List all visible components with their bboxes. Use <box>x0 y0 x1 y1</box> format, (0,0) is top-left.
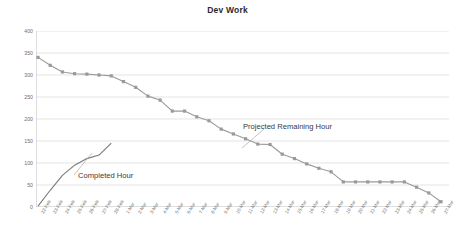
data-point-marker <box>110 74 113 77</box>
data-point-marker <box>171 109 174 112</box>
data-point-marker <box>195 115 198 118</box>
plot-area <box>36 31 449 207</box>
data-point-marker <box>61 70 64 73</box>
y-axis-tick-label: 400 <box>11 28 33 34</box>
data-point-marker <box>207 119 210 122</box>
data-point-marker <box>366 180 369 183</box>
data-point-marker <box>354 180 357 183</box>
data-point-marker <box>159 98 162 101</box>
data-point-marker <box>85 73 88 76</box>
y-axis-tick-label: 250 <box>11 94 33 100</box>
y-axis-tick-label: 300 <box>11 72 33 78</box>
data-point-marker <box>183 109 186 112</box>
data-point-marker <box>391 180 394 183</box>
gridlines <box>36 31 449 207</box>
chart-svg <box>36 31 449 207</box>
chart-container: Dev Work 050100150200250300350400 22-Feb… <box>0 0 455 241</box>
annotation-projected-remaining-hour: Projected Remaining Hour <box>243 122 332 131</box>
data-point-marker <box>73 72 76 75</box>
data-point-marker <box>256 142 259 145</box>
data-point-marker <box>146 95 149 98</box>
data-point-marker <box>134 86 137 89</box>
data-point-marker <box>415 186 418 189</box>
y-axis-tick-label: 350 <box>11 50 33 56</box>
y-axis-tick-label: 0 <box>11 204 33 210</box>
y-axis-tick-label: 200 <box>11 116 33 122</box>
series-line-0 <box>38 57 441 201</box>
data-point-marker <box>122 80 125 83</box>
data-point-marker <box>329 170 332 173</box>
data-point-marker <box>268 143 271 146</box>
page-title: Dev Work <box>0 5 455 15</box>
data-point-marker <box>220 128 223 131</box>
data-point-marker <box>342 180 345 183</box>
y-axis-tick-label: 50 <box>11 182 33 188</box>
data-point-marker <box>403 180 406 183</box>
data-point-marker <box>36 56 39 59</box>
data-point-marker <box>378 180 381 183</box>
data-point-marker <box>97 73 100 76</box>
y-axis-tick-label: 150 <box>11 138 33 144</box>
data-point-marker <box>305 162 308 165</box>
y-axis-tick-label: 100 <box>11 160 33 166</box>
series-layer <box>36 56 442 206</box>
data-point-marker <box>232 132 235 135</box>
data-point-marker <box>281 153 284 156</box>
data-point-marker <box>427 191 430 194</box>
annotation-completed-hour: Completed Hour <box>78 171 133 180</box>
data-point-marker <box>293 157 296 160</box>
data-point-marker <box>317 167 320 170</box>
data-point-marker <box>244 137 247 140</box>
data-point-marker <box>49 64 52 67</box>
